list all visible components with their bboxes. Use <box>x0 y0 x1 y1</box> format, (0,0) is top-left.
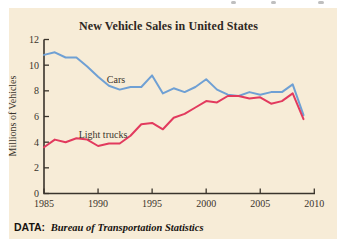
y-tick-label: 2 <box>34 162 39 173</box>
y-tick-label: 8 <box>34 85 39 96</box>
cars-line <box>44 52 304 115</box>
x-axis-ticks: 198519901995200020052010 <box>34 189 324 209</box>
cars-series-label: Cars <box>107 74 125 85</box>
y-tick-label: 4 <box>34 137 39 148</box>
x-tick-label: 2005 <box>250 198 270 209</box>
figure-screenshot: New Vehicle Sales in United States 02468… <box>0 0 337 249</box>
y-axis-title: Millions of Vehicles <box>7 75 18 156</box>
x-tick-label: 1990 <box>88 198 108 209</box>
x-tick-label: 1985 <box>34 198 54 209</box>
y-axis-ticks: 024681012 <box>29 34 49 199</box>
light-trucks-series-label: Light trucks <box>79 129 128 140</box>
x-tick-label: 1995 <box>142 198 162 209</box>
source-line: DATA: Bureau of Transportation Statistic… <box>14 221 204 233</box>
source-label: DATA: <box>14 221 45 233</box>
x-tick-label: 2010 <box>304 198 324 209</box>
y-tick-label: 6 <box>34 111 39 122</box>
chart-svg: 024681012198519901995200020052010CarsLig… <box>0 0 337 249</box>
x-tick-label: 2000 <box>196 198 216 209</box>
y-tick-label: 10 <box>29 60 39 71</box>
source-text: Bureau of Transportation Statistics <box>51 222 204 233</box>
y-tick-label: 12 <box>29 34 39 45</box>
